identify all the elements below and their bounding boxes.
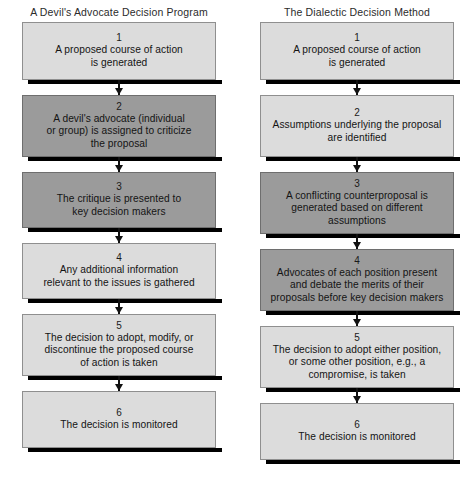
arrow-head-icon <box>115 236 123 243</box>
flow-step-text: The critique is presented to key decisio… <box>57 193 181 218</box>
arrow-head-icon <box>353 319 361 326</box>
flow-step-text: The decision is monitored <box>60 419 177 431</box>
flow-step-box-4: 4Any additional information relevant to … <box>22 243 216 299</box>
flow-step-number: 4 <box>116 252 122 264</box>
flow-node: 5The decision to adopt either position, … <box>260 326 454 388</box>
flow-arrow-connector <box>22 376 216 391</box>
flow-node: 1A proposed course of action is generate… <box>22 22 216 80</box>
box-drop-shadow <box>28 448 222 452</box>
arrow-head-icon <box>115 384 123 391</box>
flow-arrow-connector <box>260 157 454 172</box>
flow-step-text: The decision is monitored <box>298 431 415 443</box>
arrow-head-icon <box>115 307 123 314</box>
flow-step-box-1: 1A proposed course of action is generate… <box>22 22 216 80</box>
flow-column-2: The Dialectic Decision Method1A proposed… <box>238 0 476 482</box>
flow-step-box-4: 4Advocates of each position present and … <box>260 249 454 311</box>
flow-step-number: 3 <box>354 178 360 190</box>
flow-step-number: 6 <box>116 407 122 419</box>
flow-node: 6The decision is monitored <box>22 391 216 448</box>
arrow-head-icon <box>115 165 123 172</box>
flow-step-box-6: 6The decision is monitored <box>22 391 216 448</box>
arrow-head-icon <box>353 165 361 172</box>
flow-node: 3The critique is presented to key decisi… <box>22 172 216 228</box>
flow-step-box-5: 5The decision to adopt either position, … <box>260 326 454 388</box>
flow-step-text: The decision to adopt, modify, or discon… <box>45 332 194 369</box>
flow-step-number: 5 <box>116 320 122 332</box>
flow-chain: 1A proposed course of action is generate… <box>260 22 454 460</box>
flow-step-box-2: 2A devil's advocate (individual or group… <box>22 95 216 157</box>
flow-step-number: 4 <box>354 255 360 267</box>
decision-methods-diagram: A Devil's Advocate Decision Program1A pr… <box>0 0 476 482</box>
flow-step-text: A devil's advocate (individual or group)… <box>47 113 192 150</box>
flow-step-box-3: 3The critique is presented to key decisi… <box>22 172 216 228</box>
flow-node: 5The decision to adopt, modify, or disco… <box>22 314 216 376</box>
box-drop-shadow <box>266 460 460 464</box>
flow-arrow-connector <box>22 157 216 172</box>
flow-arrow-connector <box>22 228 216 243</box>
flow-step-box-6: 6The decision is monitored <box>260 403 454 460</box>
flow-node: 4Any additional information relevant to … <box>22 243 216 299</box>
flow-step-number: 5 <box>354 332 360 344</box>
flow-arrow-connector <box>260 311 454 326</box>
flow-step-text: The decision to adopt either position, o… <box>273 344 441 381</box>
flow-step-text: A proposed course of action is generated <box>55 44 183 69</box>
flow-node: 3A conflicting counterproposal is genera… <box>260 172 454 234</box>
arrow-head-icon <box>353 396 361 403</box>
column-title: The Dialectic Decision Method <box>284 0 430 22</box>
flow-step-number: 3 <box>116 181 122 193</box>
flow-step-number: 2 <box>354 107 360 119</box>
flow-node: 6The decision is monitored <box>260 403 454 460</box>
flow-arrow-connector <box>22 80 216 95</box>
arrow-head-icon <box>353 88 361 95</box>
flow-step-text: Any additional information relevant to t… <box>43 264 194 289</box>
flow-arrow-connector <box>260 234 454 249</box>
flow-step-number: 1 <box>116 32 122 44</box>
flow-column-1: A Devil's Advocate Decision Program1A pr… <box>0 0 238 482</box>
flow-node: 2Assumptions underlying the proposal are… <box>260 95 454 157</box>
flow-arrow-connector <box>22 299 216 314</box>
flow-step-text: A conflicting counterproposal is generat… <box>286 190 428 227</box>
arrow-head-icon <box>115 88 123 95</box>
flow-step-number: 1 <box>354 32 360 44</box>
flow-step-number: 2 <box>116 101 122 113</box>
flow-step-text: A proposed course of action is generated <box>293 44 421 69</box>
flow-node: 1A proposed course of action is generate… <box>260 22 454 80</box>
flow-node: 2A devil's advocate (individual or group… <box>22 95 216 157</box>
flow-step-box-2: 2Assumptions underlying the proposal are… <box>260 95 454 157</box>
flow-arrow-connector <box>260 388 454 403</box>
flow-step-box-5: 5The decision to adopt, modify, or disco… <box>22 314 216 376</box>
flow-step-box-3: 3A conflicting counterproposal is genera… <box>260 172 454 234</box>
arrow-head-icon <box>353 242 361 249</box>
flow-step-number: 6 <box>354 419 360 431</box>
flow-node: 4Advocates of each position present and … <box>260 249 454 311</box>
flow-step-text: Advocates of each position present and d… <box>271 267 444 304</box>
flow-step-text: Assumptions underlying the proposal are … <box>273 119 442 144</box>
flow-arrow-connector <box>260 80 454 95</box>
flow-step-box-1: 1A proposed course of action is generate… <box>260 22 454 80</box>
flow-chain: 1A proposed course of action is generate… <box>22 22 216 448</box>
column-title: A Devil's Advocate Decision Program <box>30 0 208 22</box>
